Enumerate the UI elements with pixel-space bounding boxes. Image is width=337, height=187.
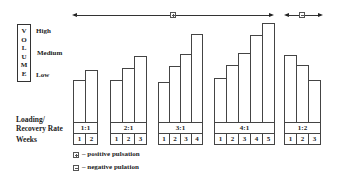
week-cell: 4: [191, 133, 203, 145]
plus-box-icon: [73, 152, 79, 158]
arrow-right-icon: [318, 13, 323, 17]
legend-positive: – positive pulsation: [82, 150, 140, 158]
week-cell: 5: [262, 133, 275, 145]
volume-axis-title: V O L U M E: [17, 24, 31, 82]
level-low: Low: [36, 71, 49, 79]
bar-1-1-week-2: [85, 70, 98, 123]
legend-negative: – negative pulation: [82, 163, 139, 171]
week-cell: 3: [134, 133, 147, 145]
bar-1-2-week-3: [308, 80, 321, 123]
arrow-right-icon: [269, 13, 274, 17]
bar-4-1-week-5: [262, 23, 275, 123]
plus-box-icon: [170, 12, 176, 18]
level-high: High: [36, 27, 51, 35]
rate-label-line2: Recovery Rate: [16, 124, 63, 133]
minus-box-icon: [299, 12, 305, 18]
minus-box-icon: [73, 165, 79, 171]
level-medium: Medium: [37, 49, 62, 57]
rate-label-line1: Loading/: [16, 115, 45, 124]
weeks-label: Weeks: [16, 135, 37, 144]
bar-3-1-week-4: [191, 34, 203, 123]
volume-letters: V O L U M E: [18, 27, 30, 79]
bar-2-1-week-3: [134, 56, 147, 123]
week-cell: 3: [308, 133, 321, 145]
week-cell: 2: [85, 133, 98, 145]
